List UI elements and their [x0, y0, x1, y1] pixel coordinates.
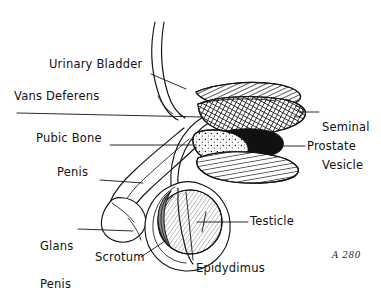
anatomy-diagram: Urinary Bladder Vans Deferens Pubic Bone… — [0, 0, 381, 294]
label-seminal-vesicle-line2: Vesicle — [322, 159, 370, 172]
leader-penis — [100, 180, 143, 183]
leader-vans-deferens — [17, 113, 203, 117]
label-prostate: Prostate — [307, 140, 356, 153]
label-vans-deferens: Vans Deferens — [14, 90, 99, 103]
label-glans-penis-line1: Glans — [40, 240, 73, 253]
label-pubic-bone: Pubic Bone — [36, 132, 102, 145]
label-seminal-vesicle-line1: Seminal — [322, 121, 370, 134]
label-glans-penis: Glans Penis — [40, 215, 73, 294]
label-urinary-bladder: Urinary Bladder — [49, 58, 142, 71]
urinary-bladder-tube — [152, 22, 185, 120]
label-epidydimus: Epidydimus — [196, 262, 265, 275]
label-penis: Penis — [57, 166, 88, 179]
glans-penis — [101, 198, 145, 243]
artist-signature: A 280 — [332, 250, 361, 260]
label-scrotum: Scrotum — [95, 251, 145, 264]
label-glans-penis-line2: Penis — [40, 278, 73, 291]
label-testicle: Testicle — [250, 215, 294, 228]
rectum-striped-structure — [197, 152, 299, 183]
